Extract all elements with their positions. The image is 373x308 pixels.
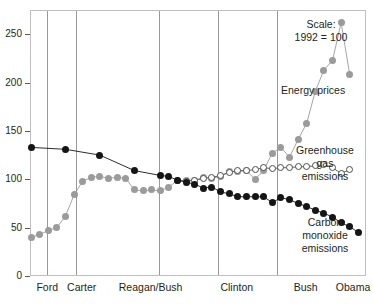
- data-point: [79, 178, 86, 185]
- series-label-greenhouse-gas-emissions: Greenhouse gas emissions: [281, 144, 369, 183]
- data-point: [286, 196, 293, 203]
- data-point: [252, 193, 259, 200]
- data-point: [114, 174, 121, 181]
- chart-figure: 050100150200250 FordCarterReagan/BushCli…: [0, 0, 373, 308]
- data-point: [217, 172, 224, 179]
- data-point: [312, 207, 319, 214]
- data-point: [183, 179, 190, 186]
- data-point: [269, 150, 276, 157]
- data-point: [226, 190, 233, 197]
- data-point: [71, 191, 78, 198]
- scale-note: Scale: 1992 = 100: [275, 18, 367, 44]
- data-point: [269, 199, 276, 206]
- data-point: [131, 167, 138, 174]
- data-point: [329, 57, 336, 64]
- data-point: [105, 175, 112, 182]
- data-point: [62, 146, 69, 153]
- data-point: [252, 176, 259, 183]
- y-tick-label: 250: [5, 29, 22, 39]
- data-point: [295, 136, 302, 143]
- data-point: [208, 184, 215, 191]
- data-point: [200, 175, 207, 182]
- y-axis: 050100150200250: [0, 0, 30, 308]
- data-point: [200, 185, 207, 192]
- data-point: [62, 213, 69, 220]
- data-point: [243, 167, 250, 174]
- data-point: [36, 231, 43, 238]
- data-point: [303, 203, 310, 210]
- data-point: [28, 144, 35, 151]
- data-point: [269, 165, 276, 172]
- data-point: [252, 166, 259, 173]
- series-label-carbon-monoxide-emissions: Carbon monoxide emissions: [283, 216, 367, 255]
- data-point: [226, 169, 233, 176]
- data-point: [303, 120, 310, 127]
- data-point: [165, 184, 172, 191]
- data-point: [88, 174, 95, 181]
- x-axis: FordCarterReagan/BushClintonBushObama: [0, 281, 373, 303]
- data-point: [157, 172, 164, 179]
- era-label-reagan-bush: Reagan/Bush: [101, 281, 201, 293]
- data-point: [140, 187, 147, 194]
- data-point: [320, 67, 327, 74]
- y-tick-label: 200: [5, 78, 22, 88]
- y-tick-mark: [25, 276, 30, 277]
- y-tick-label: 150: [5, 126, 22, 136]
- era-label-obama: Obama: [303, 281, 373, 293]
- data-point: [45, 227, 52, 234]
- y-tick-label: 0: [16, 271, 22, 281]
- data-point: [28, 234, 35, 241]
- y-tick-label: 50: [11, 223, 22, 233]
- data-point: [174, 177, 181, 184]
- series-label-energy-prices: Energy prices: [281, 84, 367, 97]
- data-point: [191, 181, 198, 188]
- y-tick-label: 100: [5, 174, 22, 184]
- data-point: [295, 200, 302, 207]
